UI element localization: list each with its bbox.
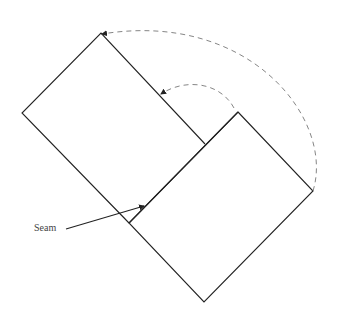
seam-pointer-arrow <box>66 206 144 229</box>
inner-fold-arc <box>161 85 234 108</box>
outer-fold-arc <box>102 31 316 191</box>
lower-rectangle <box>129 112 313 302</box>
fold-diagram <box>0 0 340 320</box>
seam-line <box>129 112 238 223</box>
upper-rectangle <box>22 33 205 223</box>
seam-label: Seam <box>34 222 56 233</box>
